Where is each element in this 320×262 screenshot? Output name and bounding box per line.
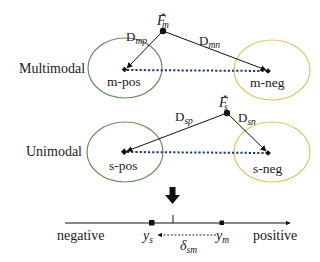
s-pos-label: s-pos bbox=[109, 159, 138, 173]
d-sp-symbol: D bbox=[175, 109, 184, 124]
y-m-sub: m bbox=[222, 235, 229, 245]
s-dotted-link bbox=[127, 152, 266, 153]
y-m-label: ym bbox=[216, 229, 229, 246]
s-pos-point bbox=[121, 149, 127, 155]
m-pos-label: m-pos bbox=[107, 75, 141, 89]
y-s-sub: s bbox=[149, 235, 153, 245]
m-dotted-link bbox=[127, 70, 266, 71]
d-mp-label: Dmp bbox=[126, 30, 147, 47]
diagram-canvas bbox=[0, 0, 320, 262]
d-sn-sub: sn bbox=[247, 117, 255, 127]
m-neg-label: m-neg bbox=[250, 76, 285, 90]
f-s-anchor-label: F*s bbox=[219, 94, 228, 113]
delta-sm-label: δsm bbox=[180, 239, 197, 256]
d-sp-label: Dsp bbox=[175, 110, 193, 127]
d-sp-sub: sp bbox=[184, 116, 192, 126]
down-arrow-icon bbox=[165, 187, 180, 204]
d-mn-sub: mn bbox=[208, 40, 220, 50]
y-m-marker bbox=[220, 221, 225, 226]
y-s-marker bbox=[149, 220, 155, 226]
d-mn-label: Dmn bbox=[199, 34, 220, 51]
f-s-sub: s bbox=[224, 102, 228, 112]
d-sn-symbol: D bbox=[238, 110, 247, 125]
d-mp-sub: mp bbox=[135, 36, 147, 46]
axis-positive-label: positive bbox=[253, 229, 297, 243]
s-neg-label: s-neg bbox=[253, 162, 282, 176]
d-mp-symbol: D bbox=[126, 29, 135, 44]
m-pos-point bbox=[122, 67, 128, 73]
d-mn-symbol: D bbox=[199, 33, 208, 48]
delta-sm-sub: sm bbox=[187, 245, 198, 255]
unimodal-row-label: Unimodal bbox=[26, 145, 82, 159]
m-neg-point bbox=[265, 68, 271, 74]
multimodal-row-label: Multimodal bbox=[19, 62, 85, 76]
y-s-label: ys bbox=[143, 229, 153, 246]
d-sn-label: Dsn bbox=[238, 111, 256, 128]
f-m-sub: m bbox=[162, 20, 169, 30]
embedding-distance-diagram: Multimodal Unimodal m-pos m-neg s-pos s-… bbox=[0, 0, 320, 262]
f-m-anchor-label: F*m bbox=[157, 12, 169, 31]
s-neg-point bbox=[265, 150, 271, 156]
axis-negative-label: negative bbox=[57, 229, 104, 243]
